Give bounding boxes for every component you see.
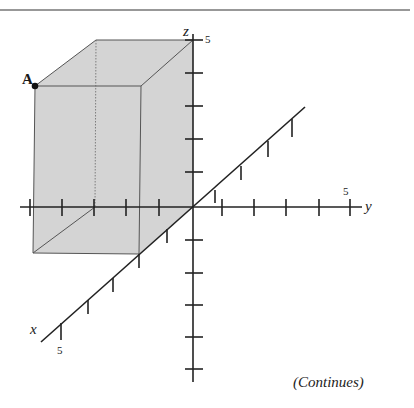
y-axis-tick-5-label: 5 bbox=[343, 186, 349, 197]
point-a-label: A bbox=[22, 72, 33, 87]
x-axis-label: x bbox=[30, 322, 37, 337]
x-axis-tick-5-label: 5 bbox=[57, 345, 63, 356]
y-axis-label: y bbox=[365, 199, 372, 214]
z-axis-label: z bbox=[183, 24, 189, 39]
z-axis-tick-5-label: 5 bbox=[205, 34, 211, 45]
shaded-box bbox=[33, 40, 193, 254]
continues-caption: (Continues) bbox=[293, 375, 364, 390]
